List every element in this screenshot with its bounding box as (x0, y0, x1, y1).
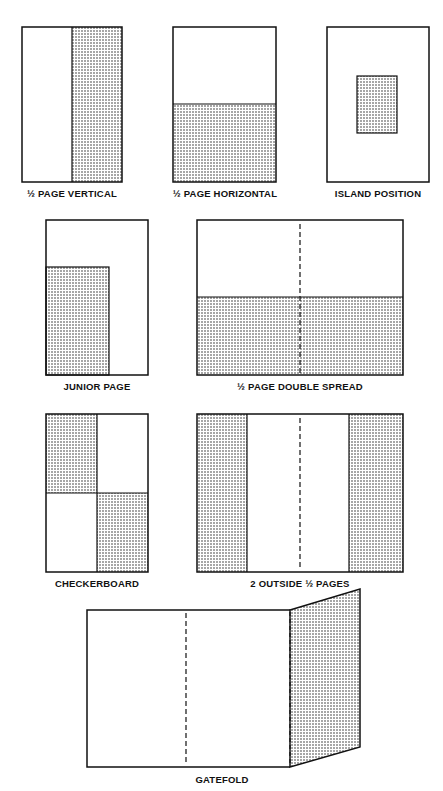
label-island-position: ISLAND POSITION (335, 188, 421, 199)
panel-checkerboard (46, 414, 148, 572)
spread-outline (87, 610, 290, 767)
label-half-page-horizontal: ½ PAGE HORIZONTAL (173, 188, 277, 199)
panel-half-page-vertical (22, 27, 122, 182)
panel-half-page-double-spread (197, 220, 403, 375)
shaded-ad-area-bottom-right (97, 493, 148, 572)
shaded-gatefold-flap (290, 589, 360, 767)
label-gatefold: GATEFOLD (195, 774, 248, 785)
panel-gatefold (87, 589, 360, 767)
label-half-page-double-spread: ½ PAGE DOUBLE SPREAD (237, 381, 363, 392)
panel-island-position (327, 27, 429, 182)
panel-two-outside-half-pages (197, 414, 403, 572)
label-two-outside-half-pages: 2 OUTSIDE ½ PAGES (250, 578, 349, 589)
label-half-page-vertical: ½ PAGE VERTICAL (27, 188, 117, 199)
label-junior-page: JUNIOR PAGE (64, 381, 131, 392)
shaded-ad-area (173, 104, 276, 182)
shaded-ad-area-top-left (46, 414, 97, 493)
ad-layout-diagram (0, 0, 443, 791)
shaded-ad-area (357, 76, 397, 133)
shaded-ad-area (72, 27, 122, 182)
label-checkerboard: CHECKERBOARD (55, 578, 139, 589)
shaded-ad-area-right (349, 414, 403, 572)
panel-half-page-horizontal (173, 27, 276, 182)
shaded-ad-area (46, 267, 109, 375)
shaded-ad-area-left (197, 414, 247, 572)
panel-junior-page (46, 220, 148, 375)
